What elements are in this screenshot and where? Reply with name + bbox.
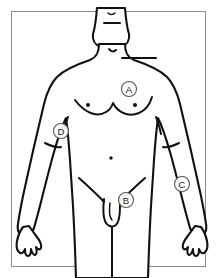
label-letter-a: A (126, 84, 133, 95)
right-hand-outline (183, 226, 208, 256)
label-callout-a[interactable]: A (122, 82, 137, 97)
label-callout-c[interactable]: C (175, 177, 190, 192)
navel-mark (109, 156, 112, 159)
label-letter-d: D (58, 126, 65, 137)
body-illustration: A B C D (0, 0, 216, 278)
anatomical-diagram-figure: A B C D (0, 0, 216, 278)
left-nipple-mark (86, 103, 90, 107)
left-hand-outline (17, 226, 42, 256)
right-nipple-mark (133, 103, 137, 107)
label-letter-b: B (123, 195, 129, 206)
label-letter-c: C (179, 179, 186, 190)
label-callout-d[interactable]: D (54, 124, 69, 139)
label-callout-b[interactable]: B (119, 193, 134, 208)
